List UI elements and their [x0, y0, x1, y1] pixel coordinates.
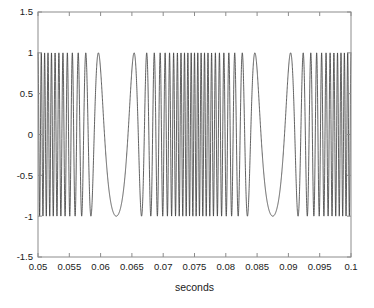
y-tick-label: 0.5	[20, 88, 33, 99]
y-tick-label: 1	[28, 47, 33, 58]
x-tick-label: 0.065	[120, 261, 144, 272]
figure-canvas: 0.050.0550.060.0650.070.0750.080.0850.09…	[0, 0, 374, 308]
x-tick-label: 0.055	[57, 261, 81, 272]
x-axis-tick-labels: 0.050.0550.060.0650.070.0750.080.0850.09…	[29, 261, 358, 272]
y-tick-label: 1.5	[20, 6, 33, 17]
x-tick-label: 0.05	[29, 261, 48, 272]
x-tick-label: 0.085	[245, 261, 269, 272]
y-tick-label: 0	[28, 129, 33, 140]
x-tick-label: 0.06	[91, 261, 110, 272]
y-tick-label: -0.5	[17, 170, 33, 181]
x-tick-label: 0.09	[279, 261, 298, 272]
axes-background	[38, 12, 351, 257]
x-tick-label: 0.095	[308, 261, 332, 272]
y-tick-label: -1	[25, 211, 33, 222]
x-axis-title: seconds	[175, 281, 214, 293]
x-tick-label: 0.08	[217, 261, 236, 272]
x-tick-label: 0.1	[344, 261, 357, 272]
y-tick-label: -1.5	[17, 251, 33, 262]
x-tick-label: 0.075	[183, 261, 207, 272]
x-tick-label: 0.07	[154, 261, 173, 272]
chart-plot: 0.050.0550.060.0650.070.0750.080.0850.09…	[0, 0, 374, 308]
